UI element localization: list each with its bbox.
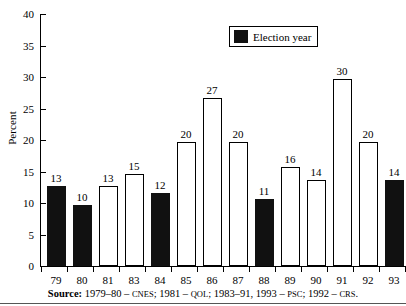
x-tick-90 (301, 266, 302, 272)
x-tick-84 (145, 266, 146, 272)
bar-90 (307, 180, 326, 266)
bar-value-85: 20 (171, 129, 201, 140)
bar-chart-figure: Percent 0510152025303540 131013151220272… (0, 0, 406, 306)
bar-value-89: 16 (275, 154, 305, 165)
y-tick-label-40: 40 (4, 9, 34, 20)
source-label: Source: (48, 288, 82, 299)
x-tick-92 (353, 266, 354, 272)
bar-value-84: 12 (145, 180, 175, 191)
source-note: Source: 1979–80 – CNES; 1981 – QOL; 1983… (0, 288, 406, 300)
x-tick-89 (275, 266, 276, 272)
y-tick-label-10: 10 (4, 198, 34, 209)
bar-84 (151, 193, 170, 266)
bar-value-92: 20 (353, 129, 383, 140)
source-acronym-qol: QOL (191, 289, 208, 299)
bar-value-88: 11 (249, 186, 279, 197)
y-tick-label-30: 30 (4, 72, 34, 83)
bar-value-83: 15 (119, 161, 149, 172)
bar-91 (333, 79, 352, 266)
legend-swatch-election-year (234, 30, 248, 43)
bar-value-91: 30 (327, 66, 357, 77)
bar-79 (47, 186, 66, 266)
bar-87 (229, 142, 248, 266)
bar-86 (203, 98, 222, 266)
bar-80 (73, 205, 92, 266)
y-tick-label-35: 35 (4, 41, 34, 52)
y-tick-label-0: 0 (4, 261, 34, 272)
x-tick-81 (93, 266, 94, 272)
bar-value-93: 14 (379, 167, 406, 178)
x-tick-93 (379, 266, 380, 272)
x-tick-88 (249, 266, 250, 272)
source-acronym-psc: PSC (287, 289, 302, 299)
y-tick-label-5: 5 (4, 230, 34, 241)
chart-legend: Election year (229, 26, 318, 47)
bar-92 (359, 142, 378, 266)
bar-value-87: 20 (223, 129, 253, 140)
y-tick-label-20: 20 (4, 135, 34, 146)
x-tick-label-93: 93 (379, 274, 406, 286)
source-text: 1979–80 – CNES; 1981 – QOL; 1983–91, 199… (85, 288, 358, 299)
x-tick-85 (171, 266, 172, 272)
bar-value-90: 14 (301, 167, 331, 178)
source-acronym-crs: CRS (339, 289, 355, 299)
bar-85 (177, 142, 196, 266)
bar-value-80: 10 (67, 192, 97, 203)
x-tick-83 (119, 266, 120, 272)
bar-89 (281, 167, 300, 266)
y-tick-label-15: 15 (4, 167, 34, 178)
x-tick-87 (223, 266, 224, 272)
bar-88 (255, 199, 274, 266)
bottom-divider (0, 303, 406, 304)
bar-83 (125, 174, 144, 266)
source-acronym-cnes: CNES (132, 289, 154, 299)
plot-area: 1310131512202720111614302014 (41, 14, 405, 266)
x-tick-86 (197, 266, 198, 272)
bar-value-79: 13 (41, 173, 71, 184)
x-tick-80 (67, 266, 68, 272)
x-tick-91 (327, 266, 328, 272)
bar-value-86: 27 (197, 85, 227, 96)
bar-93 (385, 180, 404, 266)
bar-value-81: 13 (93, 173, 123, 184)
legend-label-election-year: Election year (253, 31, 311, 43)
bar-81 (99, 186, 118, 266)
y-tick-label-25: 25 (4, 104, 34, 115)
x-tick-79 (41, 266, 42, 272)
